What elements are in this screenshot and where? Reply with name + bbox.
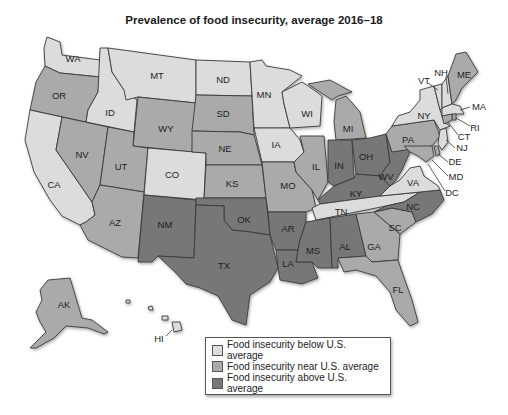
legend-swatch-near	[212, 361, 223, 372]
svg-text:CA: CA	[47, 179, 61, 190]
svg-text:LA: LA	[282, 258, 294, 269]
svg-text:TN: TN	[335, 206, 348, 217]
svg-text:OR: OR	[52, 90, 66, 101]
svg-text:AL: AL	[339, 241, 351, 252]
state-RI[interactable]	[452, 114, 456, 120]
map-legend: Food insecurity below U.S. average Food …	[205, 337, 391, 395]
svg-text:MA: MA	[472, 101, 487, 112]
svg-text:MN: MN	[257, 89, 272, 100]
svg-text:OK: OK	[237, 214, 251, 225]
svg-text:GA: GA	[367, 241, 381, 252]
svg-text:NM: NM	[158, 219, 173, 230]
state-CT[interactable]	[442, 114, 452, 124]
legend-label-below: Food insecurity below U.S. average	[227, 339, 384, 361]
legend-item-below: Food insecurity below U.S. average	[212, 342, 384, 359]
svg-text:TX: TX	[218, 260, 231, 271]
svg-text:NY: NY	[417, 110, 431, 121]
svg-text:MT: MT	[150, 70, 164, 81]
svg-text:MO: MO	[280, 180, 295, 191]
svg-text:KS: KS	[226, 178, 239, 189]
svg-text:WA: WA	[66, 53, 82, 64]
svg-text:IA: IA	[272, 139, 282, 150]
svg-text:FL: FL	[392, 284, 403, 295]
svg-text:NE: NE	[218, 143, 231, 154]
svg-text:PA: PA	[402, 134, 415, 145]
legend-label-near: Food insecurity near U.S. average	[227, 361, 379, 372]
svg-text:IN: IN	[334, 160, 344, 171]
svg-text:WY: WY	[158, 123, 174, 134]
svg-text:SD: SD	[216, 108, 229, 119]
svg-text:SC: SC	[388, 222, 401, 233]
svg-text:HI: HI	[154, 333, 164, 344]
legend-item-above: Food insecurity above U.S. average	[212, 375, 384, 392]
svg-text:AK: AK	[58, 299, 71, 310]
svg-text:VA: VA	[407, 177, 420, 188]
svg-text:CT: CT	[458, 131, 471, 142]
svg-text:OH: OH	[359, 151, 373, 162]
svg-text:NH: NH	[434, 67, 448, 78]
svg-text:MD: MD	[449, 171, 464, 182]
svg-text:ME: ME	[457, 69, 471, 80]
svg-text:AZ: AZ	[109, 217, 121, 228]
svg-text:KY: KY	[350, 188, 363, 199]
legend-swatch-above	[212, 378, 223, 389]
svg-text:AR: AR	[281, 223, 294, 234]
svg-text:ND: ND	[216, 74, 230, 85]
svg-text:WI: WI	[301, 108, 313, 119]
state-AK[interactable]	[30, 278, 108, 348]
svg-text:MS: MS	[306, 245, 320, 256]
svg-text:RI: RI	[470, 122, 480, 133]
svg-text:NV: NV	[75, 149, 89, 160]
svg-text:DE: DE	[448, 156, 461, 167]
svg-text:WV: WV	[378, 171, 394, 182]
svg-text:UT: UT	[115, 161, 128, 172]
svg-text:ID: ID	[105, 107, 115, 118]
svg-text:MI: MI	[343, 123, 354, 134]
svg-text:DC: DC	[445, 187, 459, 198]
svg-text:CO: CO	[165, 169, 179, 180]
state-FL[interactable]	[338, 256, 418, 326]
svg-text:IL: IL	[312, 161, 320, 172]
svg-text:NC: NC	[406, 201, 420, 212]
svg-text:NJ: NJ	[456, 142, 468, 153]
state-HI[interactable]	[126, 300, 182, 332]
svg-text:VT: VT	[418, 75, 430, 86]
state-NJ[interactable]	[438, 128, 448, 150]
legend-label-above: Food insecurity above U.S. average	[227, 372, 384, 394]
legend-swatch-below	[212, 345, 223, 356]
